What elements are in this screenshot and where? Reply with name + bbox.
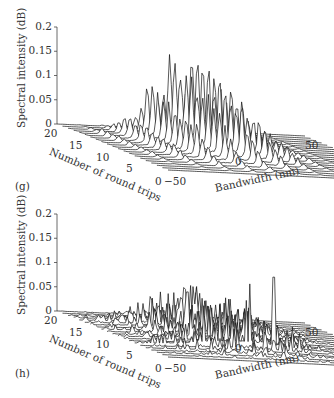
- round-trip-tick: 5: [126, 163, 133, 174]
- round-trip-tick: 20: [44, 315, 57, 326]
- bandwidth-tick: 0: [235, 156, 242, 167]
- bandwidth-tick: 50: [305, 140, 318, 151]
- round-trip-tick: 10: [96, 339, 109, 350]
- round-trip-tick: 0: [155, 363, 162, 374]
- round-trip-tick: 5: [126, 350, 133, 361]
- round-trip-tick: 15: [69, 327, 82, 338]
- round-trip-tick: 10: [96, 152, 109, 163]
- round-trip-tick: 20: [44, 128, 57, 139]
- bandwidth-tick: 50: [305, 327, 318, 338]
- round-trip-tick: 0: [155, 176, 162, 187]
- bandwidth-tick: −50: [164, 176, 186, 187]
- round-trip-tick: 15: [69, 140, 82, 151]
- z-axis-label: Spectral intensity (dB): [16, 8, 27, 128]
- bandwidth-tick: −50: [164, 363, 186, 374]
- panel-g: 0.2 0.15 0.1 0.05 0 Spectral intensity (…: [0, 0, 334, 199]
- panel-tag-h: (h): [15, 368, 30, 379]
- bandwidth-tick: 0: [235, 343, 242, 354]
- panel-h: 0.2 0.15 0.1 0.05 0 Spectral intensity (…: [0, 187, 334, 398]
- z-axis-label: Spectral intensity (dB): [16, 195, 27, 315]
